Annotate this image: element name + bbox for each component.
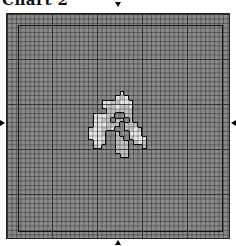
pattern-grid (6, 13, 230, 239)
right-center-arrow-icon (231, 120, 236, 126)
top-center-arrow-icon (115, 2, 121, 7)
chart-title: Chart 2 (2, 0, 69, 9)
left-center-arrow-icon (0, 120, 5, 126)
inner-frame (18, 25, 223, 232)
bottom-center-arrow-icon (115, 240, 121, 245)
